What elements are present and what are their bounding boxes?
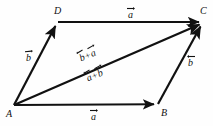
vertex-label-A: A (6, 109, 12, 119)
edge-label-AD-text: b (26, 52, 31, 63)
edge-label-AB: a (91, 107, 96, 123)
edge-label-DC-text: a (128, 9, 133, 20)
vector-symbol-a-bottom: a (91, 109, 96, 122)
edge-AB-line (14, 104, 154, 105)
diagonal-AC-line (14, 25, 200, 106)
edge-label-DC: a (128, 5, 133, 21)
edge-AD-line (14, 26, 55, 105)
vector-diagram-canvas: A B C D a a (0, 0, 213, 126)
parallelogram-figure (0, 0, 213, 126)
edge-BC-line (158, 27, 201, 105)
edge-label-AB-text: a (91, 111, 96, 122)
vector-symbol-a-top: a (128, 7, 133, 20)
vertex-label-B: B (161, 108, 167, 118)
vertex-label-D: D (54, 6, 61, 16)
edge-label-BC: b (188, 53, 193, 69)
edge-label-AD: b (26, 48, 31, 64)
edge-label-BC-text: b (188, 57, 193, 68)
vector-symbol-b-left: b (26, 50, 31, 63)
vertex-label-C: C (200, 6, 207, 16)
vector-symbol-b-right: b (188, 55, 193, 68)
